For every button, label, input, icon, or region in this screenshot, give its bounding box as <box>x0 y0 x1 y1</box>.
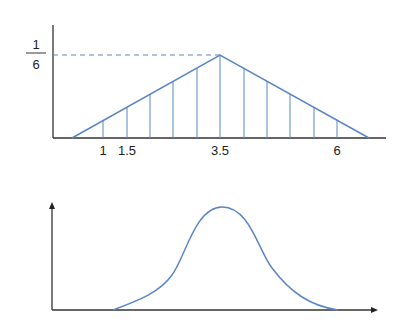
y-label-denominator: 6 <box>32 57 39 72</box>
x-axis-arrow-icon <box>371 307 378 313</box>
y-axis-arrow-icon <box>49 202 55 209</box>
x-label-6: 6 <box>333 143 340 158</box>
bell-curve <box>113 207 338 310</box>
y-tick-label-fraction: 1 6 <box>26 37 46 72</box>
bell-curve-chart <box>49 202 378 313</box>
x-label-1: 1 <box>99 143 106 158</box>
x-label-1-5: 1.5 <box>118 143 136 158</box>
vertical-strips <box>103 55 337 138</box>
triangular-distribution-chart: 1 6 1 1.5 3.5 6 <box>26 25 386 158</box>
y-label-numerator: 1 <box>32 37 39 52</box>
x-tick-labels: 1 1.5 3.5 6 <box>99 143 340 158</box>
x-label-3-5: 3.5 <box>211 143 229 158</box>
figure: 1 6 1 1.5 3.5 6 <box>0 0 410 336</box>
